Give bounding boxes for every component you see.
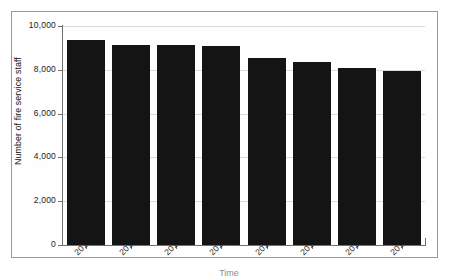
x-axis-title: Time	[0, 268, 458, 278]
y-axis-title: Number of fire service staff	[13, 21, 23, 201]
y-gridline	[63, 26, 425, 27]
bar[interactable]	[202, 46, 240, 245]
y-tick-mark	[58, 201, 63, 202]
plot-area	[63, 26, 425, 245]
bar[interactable]	[383, 71, 421, 245]
x-axis-right-end-cap	[425, 238, 426, 246]
chart-page: { "chart_data": { "type": "bar", "title"…	[0, 0, 458, 280]
bar[interactable]	[248, 58, 286, 245]
bar[interactable]	[157, 45, 195, 245]
bar[interactable]	[112, 45, 150, 245]
y-tick-label: 0	[6, 239, 56, 249]
bar[interactable]	[67, 40, 105, 245]
y-axis-tick-labels: 02,0004,0006,0008,00010,000	[0, 0, 56, 280]
y-tick-mark	[58, 114, 63, 115]
y-tick-mark	[58, 70, 63, 71]
y-tick-mark	[58, 157, 63, 158]
y-tick-mark	[58, 245, 63, 246]
bar[interactable]	[338, 68, 376, 245]
bar[interactable]	[293, 62, 331, 245]
y-tick-mark	[58, 26, 63, 27]
x-axis-line	[62, 245, 426, 246]
